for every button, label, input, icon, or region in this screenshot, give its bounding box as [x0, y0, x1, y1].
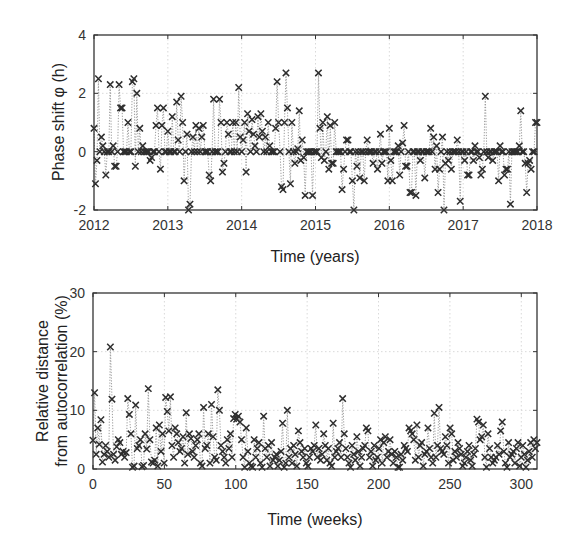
- phase-gridlines: [94, 35, 537, 210]
- x-marker: [194, 436, 200, 442]
- y-tick-label: 30: [69, 285, 85, 301]
- x-marker: [260, 413, 266, 419]
- x-marker: [272, 125, 278, 131]
- x-tick-label: 2017: [448, 217, 479, 233]
- figure: 2012201320142015201620172018-2024 Time (…: [0, 0, 576, 549]
- y-tick-label: 4: [78, 27, 86, 43]
- y-tick-label: 0: [78, 144, 86, 160]
- x-tick-label: 2018: [521, 217, 552, 233]
- distance-y-axis-label-line2: from autocorrelation (%): [53, 295, 70, 467]
- x-tick-label: 50: [157, 476, 173, 492]
- x-marker: [169, 113, 175, 119]
- x-marker: [137, 436, 143, 442]
- distance-markers: [90, 344, 540, 471]
- x-marker: [352, 457, 358, 463]
- x-marker: [229, 454, 235, 460]
- x-tick-label: 150: [295, 476, 319, 492]
- x-marker: [442, 434, 448, 440]
- x-marker: [191, 454, 197, 460]
- x-marker: [369, 463, 375, 469]
- y-tick-label: 20: [69, 344, 85, 360]
- x-tick-label: 0: [89, 476, 97, 492]
- x-marker: [469, 463, 475, 469]
- x-marker: [516, 143, 522, 149]
- phase-x-axis-label: Time (years): [270, 248, 359, 265]
- phase-y-axis-label: Phase shift φ (h): [50, 63, 67, 181]
- x-marker: [180, 434, 186, 440]
- y-tick-label: 10: [69, 402, 85, 418]
- distance-plot-frame: [93, 293, 537, 469]
- x-marker: [426, 445, 432, 451]
- x-marker: [392, 448, 398, 454]
- x-marker: [464, 448, 470, 454]
- x-marker: [237, 419, 243, 425]
- x-marker: [470, 157, 476, 163]
- x-marker: [411, 436, 417, 442]
- x-marker: [208, 401, 214, 407]
- x-marker: [302, 192, 308, 198]
- x-marker: [219, 448, 225, 454]
- x-tick-label: 100: [224, 476, 248, 492]
- distance-y-axis-label-line1: Relative distance: [34, 320, 51, 442]
- x-marker: [430, 460, 436, 466]
- x-marker: [357, 463, 363, 469]
- x-marker: [109, 396, 115, 402]
- x-marker: [221, 454, 227, 460]
- x-marker: [300, 454, 306, 460]
- x-marker: [448, 431, 454, 437]
- x-marker: [254, 445, 260, 451]
- x-marker: [433, 143, 439, 149]
- x-marker: [366, 454, 372, 460]
- x-marker: [479, 166, 485, 172]
- x-tick-label: 2012: [78, 217, 109, 233]
- x-marker: [174, 431, 180, 437]
- phase-shift-plot: 2012201320142015201620172018-2024 Time (…: [50, 27, 553, 265]
- x-marker: [476, 154, 482, 160]
- relative-distance-plot: 0501001502002503000102030 Time (weeks) R…: [34, 285, 540, 528]
- x-marker: [507, 201, 513, 207]
- x-tick-label: 2016: [374, 217, 405, 233]
- x-tick-label: 300: [510, 476, 534, 492]
- x-marker: [321, 157, 327, 163]
- x-tick-label: 250: [438, 476, 462, 492]
- x-marker: [448, 166, 454, 172]
- y-tick-label: 0: [77, 461, 85, 477]
- x-marker: [172, 425, 178, 431]
- y-tick-label: -2: [74, 202, 87, 218]
- phase-ticks: 2012201320142015201620172018-2024: [74, 27, 553, 233]
- x-tick-label: 2015: [300, 217, 331, 233]
- x-marker: [497, 428, 503, 434]
- distance-x-axis-label: Time (weeks): [267, 511, 362, 528]
- x-marker: [343, 445, 349, 451]
- x-tick-label: 2013: [152, 217, 183, 233]
- x-tick-label: 200: [367, 476, 391, 492]
- distance-gridlines: [93, 293, 537, 469]
- x-marker: [207, 460, 213, 466]
- x-marker: [275, 463, 281, 469]
- y-tick-label: 2: [78, 85, 86, 101]
- x-marker: [243, 169, 249, 175]
- x-tick-label: 2014: [226, 217, 257, 233]
- x-marker: [132, 163, 138, 169]
- x-marker: [187, 201, 193, 207]
- x-marker: [102, 442, 108, 448]
